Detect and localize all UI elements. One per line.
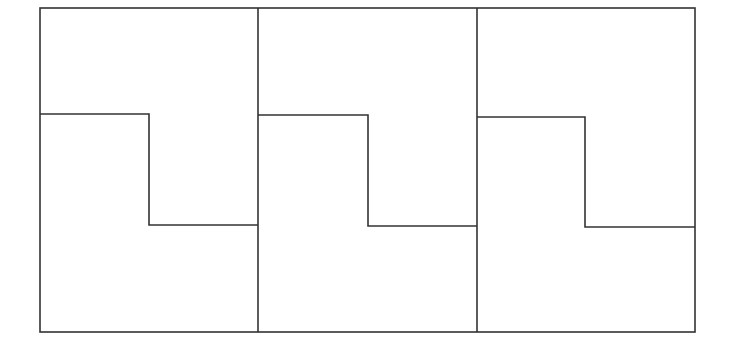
step-line-panel-2	[258, 115, 477, 226]
stepped-panel-diagram	[0, 0, 730, 343]
step-line-panel-3	[477, 117, 695, 227]
step-line-panel-1	[40, 114, 258, 225]
step-lines	[40, 114, 695, 227]
